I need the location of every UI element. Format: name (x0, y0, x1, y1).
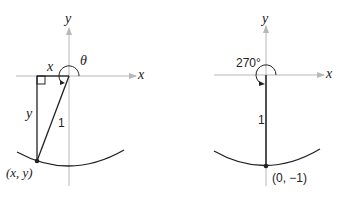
unit-circle-diagrams (0, 0, 354, 197)
point-0-neg1 (264, 164, 269, 169)
vertical-leg-label: y (26, 107, 32, 121)
unit-circle-arc (17, 150, 124, 166)
right-angle-marker (37, 76, 45, 84)
right-x-axis-label: x (326, 67, 332, 81)
left-x-axis-label: x (138, 68, 144, 82)
angle-270-label: 270° (236, 57, 261, 69)
left-y-axis-label: y (65, 12, 71, 26)
right-y-axis-label: y (262, 12, 268, 26)
point-x-y (35, 159, 40, 164)
angle-arrowhead (259, 81, 265, 86)
angle-arrowhead (60, 80, 65, 85)
right-diagram (214, 26, 324, 186)
unit-circle-arc (214, 149, 320, 166)
point-label-x-y: (x, y) (6, 166, 33, 179)
horizontal-leg-label: x (47, 60, 53, 74)
hypotenuse-label: 1 (58, 117, 65, 129)
left-diagram (16, 28, 136, 186)
point-label-0-neg1: (0, −1) (272, 172, 307, 184)
theta-label: θ (80, 54, 87, 68)
radius-label: 1 (258, 114, 265, 126)
